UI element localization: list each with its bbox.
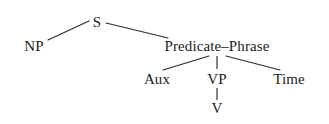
tree-edges-layer (0, 0, 329, 124)
edge-predicate-phrase-to-aux (163, 56, 209, 70)
node-vp: VP (207, 72, 226, 87)
edge-predicate-phrase-to-time (226, 56, 280, 70)
node-predicate-phrase: Predicate–Phrase (165, 39, 270, 54)
node-aux: Aux (144, 72, 170, 87)
syntax-tree-figure: S NP Predicate–Phrase Aux VP Time V (0, 0, 329, 124)
edge-s-to-np (48, 21, 89, 40)
edge-s-to-predicate-phrase (106, 23, 168, 38)
node-time: Time (273, 72, 305, 87)
node-np: NP (24, 39, 43, 54)
node-v: V (212, 101, 223, 116)
node-s: S (93, 15, 101, 30)
